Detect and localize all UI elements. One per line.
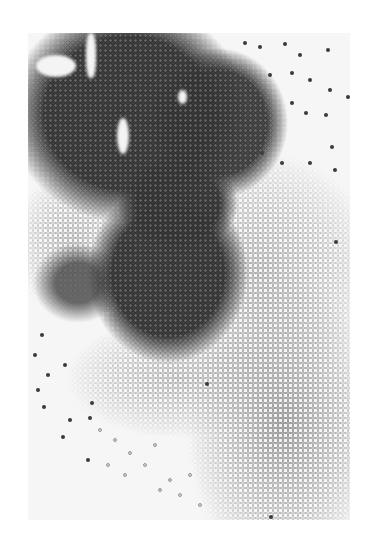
gap-small <box>178 90 187 104</box>
gap-top-notch <box>86 33 96 78</box>
gap-center <box>117 118 129 154</box>
gap-top-left <box>36 55 76 77</box>
dark-bead-texture <box>28 33 350 520</box>
bead-photograph <box>28 33 350 520</box>
